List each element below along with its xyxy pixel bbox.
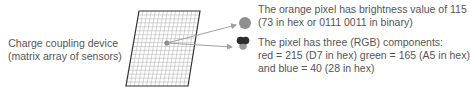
rgb-note: The pixel has three (RGB) components: re…: [258, 36, 470, 75]
sensor-label-line2: (matrix array of sensors): [8, 50, 118, 63]
sensor-label: Charge coupling device (matrix array of …: [8, 37, 118, 63]
brightness-circle-icon: [239, 17, 251, 29]
rgb-note-line3: and blue = 40 (28 in hex): [258, 62, 470, 75]
sensor-label-line1: Charge coupling device: [8, 37, 118, 50]
rgb-note-line1: The pixel has three (RGB) components:: [258, 36, 470, 49]
brightness-note: The orange pixel has brightness value of…: [258, 3, 467, 29]
rgb-note-line2: red = 215 (D7 in hex) green = 165 (A5 in…: [258, 49, 470, 62]
brightness-note-line1: The orange pixel has brightness value of…: [258, 3, 467, 16]
rgb-components-icon: [237, 37, 250, 50]
sensor-grid-border: [126, 11, 200, 86]
brightness-note-line2: (73 in hex or 0111 0011 in binary): [258, 16, 467, 29]
arrow-to-brightness: [167, 25, 236, 43]
